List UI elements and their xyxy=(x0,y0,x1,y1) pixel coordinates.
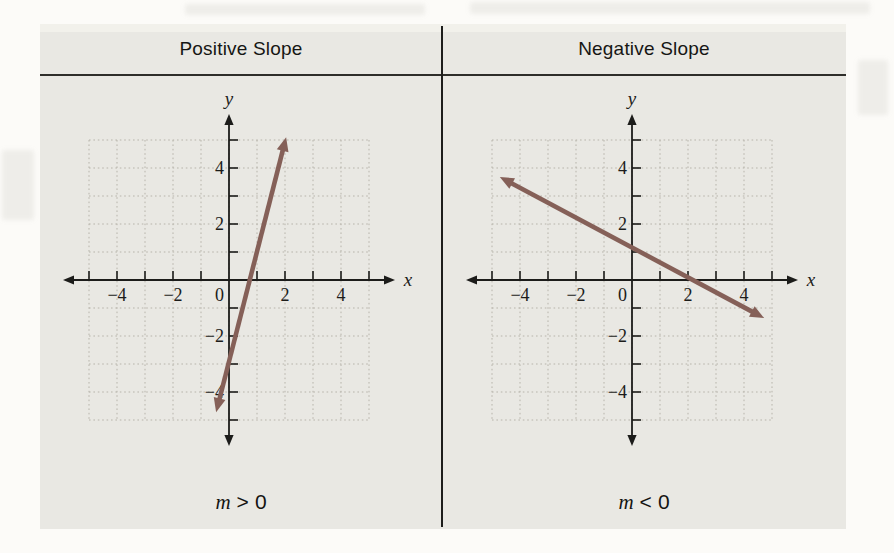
slope-variable: m xyxy=(618,490,633,514)
positive-slope-caption: m>0 xyxy=(40,490,442,515)
print-bleed-artifact xyxy=(858,60,888,115)
origin-label: 0 xyxy=(618,285,627,305)
negative-slope-graph-wrap: −4−4−2−202244xy xyxy=(442,84,846,462)
x-tick-label: 4 xyxy=(740,285,749,305)
y-axis-label: y xyxy=(223,88,234,109)
y-tick-label: −2 xyxy=(205,326,224,346)
less-than-sign: < xyxy=(640,490,652,513)
slope-variable: m xyxy=(215,490,230,514)
y-tick-label: 4 xyxy=(618,158,627,178)
axes xyxy=(72,123,386,437)
x-axis-arrow-right xyxy=(384,275,395,284)
positive-slope-graph: −4−4−2−202244xy xyxy=(51,84,431,462)
y-tick-label: 4 xyxy=(215,158,224,178)
positive-slope-panel: Positive Slope −4−4−2−202244xy m>0 xyxy=(40,24,442,529)
axis-letter-labels: xy xyxy=(223,88,413,290)
y-axis-arrow-up xyxy=(224,114,233,125)
x-tick-label: 2 xyxy=(281,285,290,305)
panel-divider xyxy=(441,26,443,527)
x-axis-arrow-left xyxy=(466,275,477,284)
x-axis-label: x xyxy=(403,269,413,290)
slope-comparison-figure: Positive Slope −4−4−2−202244xy m>0 Negat… xyxy=(40,24,846,529)
x-axis-arrow-left xyxy=(63,275,74,284)
print-bleed-artifact xyxy=(470,2,870,14)
origin-label: 0 xyxy=(215,285,224,305)
negative-slope-graph: −4−4−2−202244xy xyxy=(454,84,834,462)
x-axis-arrow-right xyxy=(787,275,798,284)
x-tick-label: 2 xyxy=(684,285,693,305)
greater-than-sign: > xyxy=(237,490,249,513)
x-tick-label: −4 xyxy=(510,285,529,305)
negative-slope-title: Negative Slope xyxy=(442,24,846,76)
x-tick-label: 4 xyxy=(337,285,346,305)
y-axis-arrow-down xyxy=(627,435,636,446)
caption-value: 0 xyxy=(255,490,267,513)
slope-line-arrowhead xyxy=(277,137,289,152)
y-tick-label: −4 xyxy=(608,382,627,402)
x-tick-label: −4 xyxy=(107,285,126,305)
y-axis-arrow-up xyxy=(627,114,636,125)
print-bleed-artifact xyxy=(2,150,34,220)
axes xyxy=(475,123,789,437)
x-tick-label: −2 xyxy=(163,285,182,305)
textbook-figure-page: Positive Slope −4−4−2−202244xy m>0 Negat… xyxy=(0,0,894,553)
positive-slope-graph-wrap: −4−4−2−202244xy xyxy=(40,84,442,462)
y-axis-label: y xyxy=(626,88,637,109)
y-tick-label: 2 xyxy=(618,214,627,234)
x-tick-label: −2 xyxy=(566,285,585,305)
caption-value: 0 xyxy=(658,490,670,513)
y-axis-arrow-down xyxy=(224,435,233,446)
positive-slope-title: Positive Slope xyxy=(40,24,442,76)
negative-slope-panel: Negative Slope −4−4−2−202244xy m<0 xyxy=(442,24,846,529)
x-axis-label: x xyxy=(806,269,816,290)
y-tick-label: 2 xyxy=(215,214,224,234)
print-bleed-artifact xyxy=(185,4,425,15)
y-tick-label: −2 xyxy=(608,326,627,346)
negative-slope-caption: m<0 xyxy=(442,490,846,515)
